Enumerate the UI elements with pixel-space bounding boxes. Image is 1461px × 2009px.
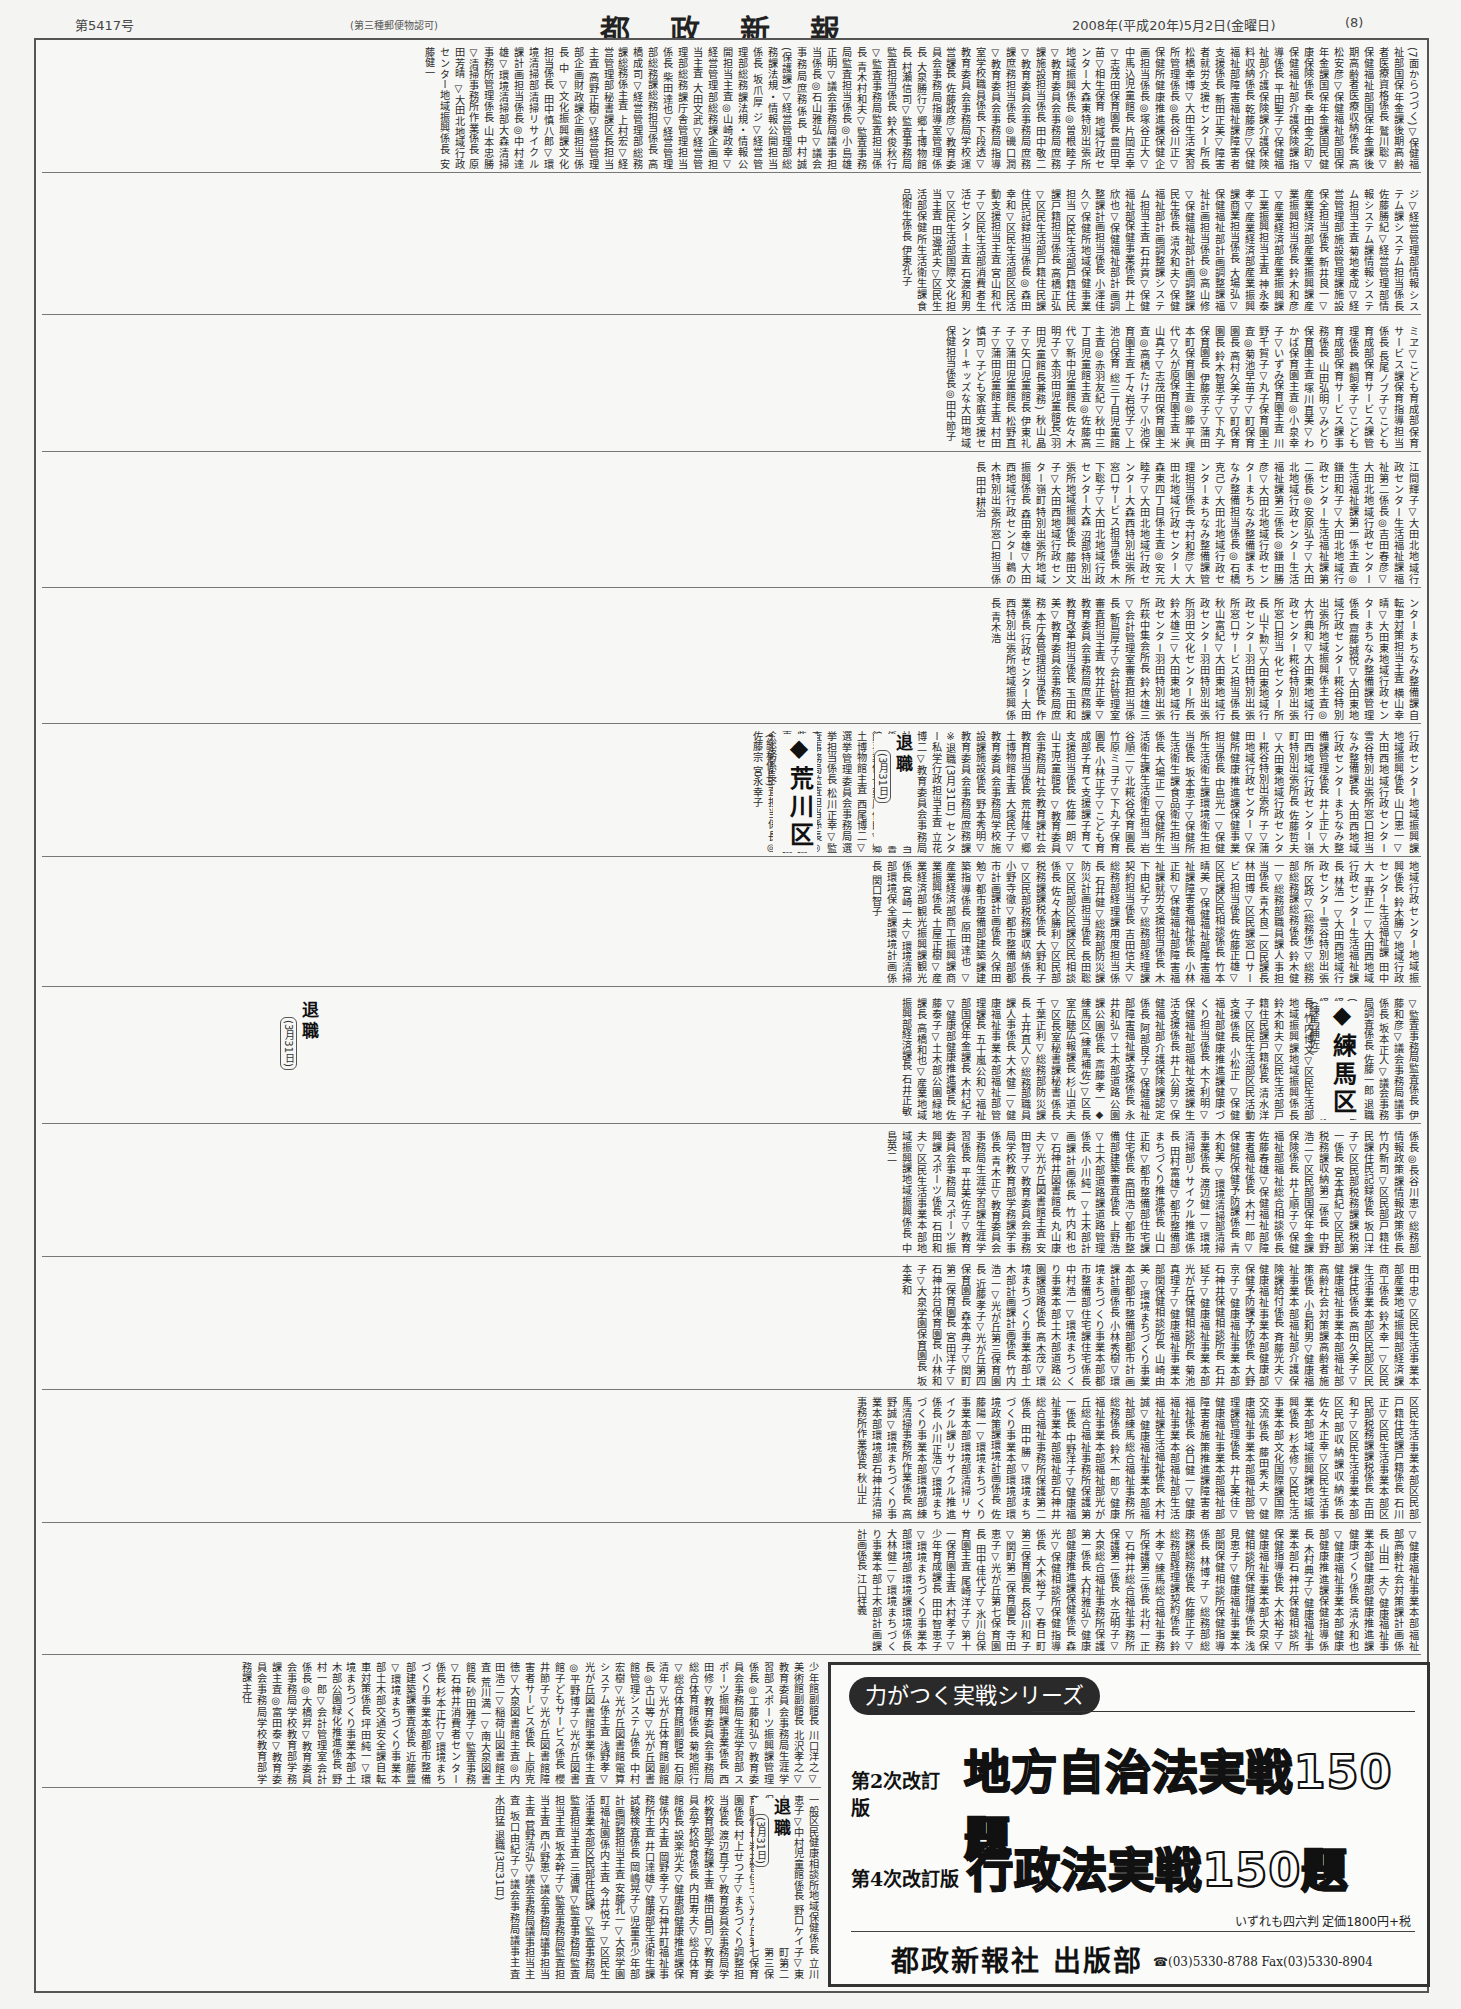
publisher-name: 都政新報社 出版部 [891, 1939, 1143, 1979]
tier-5: ンターまちなみ整備課自転車対策担当主査 横山幸晴▽大田東地域行政センターまちなみ… [42, 595, 1421, 724]
tier-11: 区民生活事業本部区民部戸籍住民課戸籍係長 石川正▽区民生活事業本部区民部税務課課… [42, 1394, 1421, 1523]
section-heading-retirement: 退職 (3月31日) [754, 1798, 794, 1948]
section-heading-nerima: ◆練馬区 (練馬補佐) [1314, 1001, 1360, 1119]
retirement-label: 退職 [891, 734, 916, 776]
personnel-list-text: ▽健康福祉事業本部福祉部高齢社会対策課計画係長 山田一夫▽健康福祉事業本部健康部… [44, 1529, 1419, 1651]
book-edition: 第2次改訂版 [851, 1766, 956, 1820]
book-title: 行政法実戦150題 [967, 1833, 1348, 1899]
tier-14: 一般区民健康相談所地域保健係長 立川恵子▽中村児童館係長 野口ケイ子▽東大泉保育… [42, 1792, 821, 1982]
retirement-date: (3月31日) [874, 750, 891, 803]
issue-number: 第5417号 [75, 15, 134, 34]
personnel-list-text: 江間輝子▽大田北地域行政センター生活福祉課福祉第二係長◎吉田春彦▽大田北地域行政… [44, 462, 1419, 584]
book-edition: 第4次改訂版 [851, 1864, 959, 1891]
tier-3: ミヱ▽こども育成部保育サービス課保育指導担当係長 長尾ノブ子▽こども育成部保育サ… [42, 323, 1421, 452]
retirement-date: (3月31日) [752, 1814, 769, 1867]
page-number: (8) [1345, 15, 1363, 30]
ward-name-arakawa: ◆荒川区 [782, 734, 817, 850]
tier-1: (7面からつづく)▽保健福祉部国保年金課後期高齢者医療資格係長 鷲川聡▽保健福祉… [42, 44, 1421, 173]
tier-10: 田中忠▽区民生活事業本部産業地域振興部経済課商工係長 鈴木幸一▽区民生活事業本部… [42, 1261, 1421, 1390]
ward-name-nerima: ◆練馬区 [1325, 1001, 1360, 1117]
publisher-contact: ☎(03)5330-8788 Fax(03)5330-8904 [1153, 1955, 1373, 1969]
tier-2: ジ▽経営管理部情報システム課システム担当係長 佐藤勝紀▽経営管理部情報システム課… [42, 186, 1421, 315]
section-heading-arakawa: ◆荒川区 (総務係長) [773, 734, 817, 852]
postal-permit: (第三種郵便物認可) [350, 17, 438, 32]
personnel-list-text: 少年館副館長 川口洋之▽美術館副館長 北沢孝之▽教育委員会事務局生涯学習部スポー… [44, 1662, 819, 1784]
personnel-list-text: 区民生活事業本部区民部戸籍住民課戸籍係長 石川正▽区民生活事業本部区民部税務課課… [44, 1397, 1419, 1519]
book-entry: 第4次改訂版 行政法実戦150題 [851, 1833, 1348, 1899]
section-heading-retirement: 退職 (3月31日) [874, 734, 916, 846]
tier-6: 行政センター地域振興課地域振興係長 山口恵一▽大田西地域行政センター雪谷特別出張… [42, 728, 1421, 857]
retirement-date: (3月31日) [280, 1017, 297, 1070]
personnel-list-text: 田中忠▽区民生活事業本部産業地域振興部経済課商工係長 鈴木幸一▽区民生活事業本部… [44, 1264, 1419, 1386]
ward-subheading: (練馬補佐) [1305, 1001, 1321, 1054]
price-note: いずれも四六判 定価1800円+税 [1235, 1912, 1411, 1929]
tier-12: ▽健康福祉事業本部福祉部高齢社会対策課計画係長 山田一夫▽健康福祉事業本部健康部… [42, 1526, 1421, 1655]
masthead: 第5417号 (第三種郵便物認可) 都政新報 2008年(平成20年)5月2日(… [0, 0, 1461, 40]
tier-4: 江間輝子▽大田北地域行政センター生活福祉課福祉第二係長◎吉田春彦▽大田北地域行政… [42, 459, 1421, 588]
personnel-list-text: 係長◎長谷川恵▽総務部情報政策課情報政策係長 竹内新司▽区民部戸籍住民課住民記録… [44, 1131, 1419, 1253]
divider [1031, 1711, 1415, 1712]
retirement-label: 退職 [297, 1001, 322, 1043]
personnel-list-text: 行政センター地域振興課地域振興係長 山口恵一▽大田西地域行政センター雪谷特別出張… [44, 731, 1419, 853]
tier-9: 係長◎長谷川恵▽総務部情報政策課情報政策係長 竹内新司▽区民部戸籍住民課住民記録… [42, 1128, 1421, 1257]
personnel-list-text: ミヱ▽こども育成部保育サービス課保育指導担当係長 長尾ノブ子▽こども育成部保育サ… [44, 326, 1419, 448]
section-heading-retirement: 退職 (3月31日) [282, 1001, 322, 1119]
issue-date: 2008年(平成20年)5月2日(金曜日) [1072, 15, 1275, 34]
series-badge: 力がつく実戦シリーズ [849, 1677, 1100, 1715]
personnel-list-text: 地域行政センター地域振興係長 鈴木勝▽地域行政センター生活福祉課 田中大 平野正… [44, 861, 1419, 983]
personnel-list-text: ▽監査事務局監査係長 伊藤和彦▽議会事務局議事係長 坂本正人▽議会事務局調査係長… [44, 998, 1419, 1120]
personnel-list-text: ンターまちなみ整備課自転車対策担当主査 横山幸晴▽大田東地域行政センターまちなみ… [44, 598, 1419, 720]
personnel-list-text: (7面からつづく)▽保健福祉部国保年金課後期高齢者医療資格係長 鷲川聡▽保健福祉… [44, 47, 1419, 169]
book-advertisement: 力がつく実戦シリーズ 第2次改訂版 地方自治法実戦150題 第4次改訂版 行政法… [828, 1662, 1430, 1987]
divider [851, 1931, 1415, 1932]
ward-subheading: (総務係長) [762, 734, 778, 787]
tier-8: ▽監査事務局監査係長 伊藤和彦▽議会事務局議事係長 坂本正人▽議会事務局調査係長… [42, 995, 1421, 1124]
personnel-list-text: 一般区民健康相談所地域保健係長 立川恵子▽中村児童館係長 野口ケイ子▽東大泉保育… [44, 1795, 819, 1979]
retirement-label: 退職 [769, 1798, 794, 1840]
tier-13: 少年館副館長 川口洋之▽美術館副館長 北沢孝之▽教育委員会事務局生涯学習部スポー… [42, 1659, 821, 1788]
personnel-list-text: ジ▽経営管理部情報システム課システム担当係長 佐藤勝紀▽経営管理部情報システム課… [44, 189, 1419, 311]
tier-7: 地域行政センター地域振興係長 鈴木勝▽地域行政センター生活福祉課 田中大 平野正… [42, 858, 1421, 987]
